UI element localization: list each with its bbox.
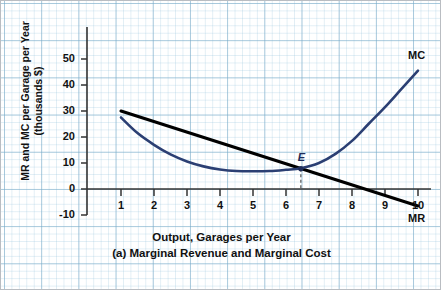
x-tick-label: 1 xyxy=(112,199,130,211)
x-tick-label: 5 xyxy=(244,199,262,211)
y-axis-label: MR and MC per Garage per Year (thousands… xyxy=(19,16,45,186)
y-tick-label: 20 xyxy=(49,130,75,142)
x-tick-label: 2 xyxy=(145,199,163,211)
y-tick-label: 50 xyxy=(49,52,75,64)
y-tick-label: 10 xyxy=(49,156,75,168)
mr-line-label: MR xyxy=(408,212,425,224)
x-tick-label: 9 xyxy=(376,199,394,211)
figure-caption: Output, Garages per Year (a) Marginal Re… xyxy=(1,229,441,261)
y-tick-label: 0 xyxy=(49,182,75,194)
y-tick-label: 30 xyxy=(49,104,75,116)
y-axis-label-line2: (thousands $) xyxy=(32,67,44,136)
mc-curve-series xyxy=(121,71,418,172)
y-tick-label: -10 xyxy=(49,208,75,220)
x-tick-label: 4 xyxy=(211,199,229,211)
x-tick-label: 7 xyxy=(310,199,328,211)
caption-line-axis-title: Output, Garages per Year xyxy=(1,229,441,245)
x-tick-label: 8 xyxy=(343,199,361,211)
caption-line-panel-title: (a) Marginal Revenue and Marginal Cost xyxy=(1,245,441,261)
figure-container: MR and MC per Garage per Year (thousands… xyxy=(0,0,441,290)
x-tick-label: 6 xyxy=(277,199,295,211)
y-tick-label: 40 xyxy=(49,78,75,90)
x-tick-label: 10 xyxy=(409,199,427,211)
equilibrium-point-marker xyxy=(298,166,303,171)
y-axis-ticks xyxy=(81,59,87,215)
mr-line-series xyxy=(121,111,418,206)
equilibrium-label: E xyxy=(298,151,305,163)
y-axis-label-line1: MR and MC per Garage per Year xyxy=(19,21,31,181)
x-tick-label: 3 xyxy=(178,199,196,211)
mc-curve-label: MC xyxy=(408,49,425,61)
